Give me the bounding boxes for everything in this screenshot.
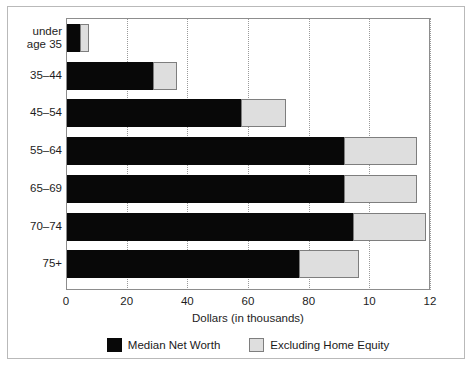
bar-row — [66, 24, 89, 52]
x-tick-label: 80 — [302, 295, 315, 307]
bar-segment-excluding-home-equity — [344, 175, 417, 203]
category-label: underage 35 — [8, 25, 62, 50]
bar-segment-excluding-home-equity — [241, 99, 287, 127]
bar-segment-excluding-home-equity — [353, 213, 426, 241]
gray-swatch — [249, 338, 264, 352]
bar-segment-median-net-worth — [66, 137, 345, 165]
bar-segment-median-net-worth — [66, 175, 345, 203]
bar-row — [66, 213, 426, 241]
x-tick-label: 10 — [363, 295, 376, 307]
bar-segment-median-net-worth — [66, 62, 154, 90]
gridline-120 — [430, 18, 432, 290]
chart-figure: underage 3535–4445–5455–6465–6970–7475+ … — [7, 6, 465, 359]
bar-segment-excluding-home-equity — [344, 137, 417, 165]
x-tick-label: 60 — [242, 295, 255, 307]
legend-label: Median Net Worth — [128, 339, 220, 351]
bar-segment-median-net-worth — [66, 24, 81, 52]
chart-legend: Median Net WorthExcluding Home Equity — [66, 337, 460, 353]
category-label: 45–54 — [8, 106, 62, 119]
bar-row — [66, 137, 417, 165]
x-axis: 0204060801012 Dollars (in thousands) — [66, 295, 430, 327]
bar-row — [66, 175, 417, 203]
bar-segment-excluding-home-equity — [299, 250, 360, 278]
x-tick-label: 20 — [120, 295, 133, 307]
legend-item: Median Net Worth — [107, 338, 220, 352]
bar-segment-median-net-worth — [66, 99, 242, 127]
x-tick-label: 12 — [424, 295, 437, 307]
bar-segment-excluding-home-equity — [153, 62, 177, 90]
category-label: 55–64 — [8, 144, 62, 157]
category-label: 35–44 — [8, 69, 62, 82]
bar-row — [66, 99, 286, 127]
bar-series-group — [66, 18, 430, 290]
bar-segment-median-net-worth — [66, 213, 354, 241]
legend-label: Excluding Home Equity — [270, 339, 389, 351]
bar-row — [66, 62, 177, 90]
bar-segment-excluding-home-equity — [80, 24, 89, 52]
category-label: 75+ — [8, 257, 62, 270]
category-label: 70–74 — [8, 220, 62, 233]
x-tick-label: 0 — [63, 295, 69, 307]
category-axis-labels: underage 3535–4445–5455–6465–6970–7475+ — [8, 7, 62, 307]
x-tick-label: 40 — [181, 295, 194, 307]
category-label: 65–69 — [8, 182, 62, 195]
plot-area — [66, 18, 430, 290]
x-axis-title: Dollars (in thousands) — [66, 312, 430, 324]
bar-segment-median-net-worth — [66, 250, 300, 278]
bar-row — [66, 250, 359, 278]
legend-item: Excluding Home Equity — [249, 338, 389, 352]
black-swatch — [107, 338, 122, 352]
